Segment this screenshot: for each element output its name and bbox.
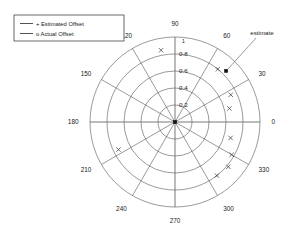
- polar-plot-figure: 0.20.40.60.81 03060901201501802102402703…: [0, 0, 296, 237]
- radial-tick-0.6: 0.6: [179, 67, 188, 74]
- angle-tick-150: 150: [81, 70, 92, 77]
- legend-frame: [14, 15, 124, 41]
- legend-label-actual: o Actual Offset: [36, 31, 74, 37]
- legend-label-estimated: + Estimated Offset: [36, 21, 84, 27]
- radial-tick-rmax: 1: [182, 38, 185, 44]
- radial-tick-0.4: 0.4: [179, 84, 188, 91]
- angle-tick-90: 90: [171, 20, 179, 27]
- annotation-estimate-label: estimate: [250, 29, 274, 36]
- actual-offset-marker: [224, 69, 227, 72]
- angle-tick-240: 240: [116, 205, 127, 212]
- angle-tick-30: 30: [259, 70, 267, 77]
- angle-tick-60: 60: [223, 32, 231, 39]
- angle-tick-0: 0: [271, 118, 275, 125]
- angle-tick-270: 270: [170, 217, 181, 224]
- angle-tick-210: 210: [81, 166, 92, 173]
- polar-plot-canvas: 0.20.40.60.81 03060901201501802102402703…: [0, 0, 296, 237]
- radial-tick-0.2: 0.2: [179, 101, 188, 108]
- angle-tick-180: 180: [68, 118, 79, 125]
- actual-offset-marker: [173, 120, 176, 123]
- angle-tick-300: 300: [223, 205, 234, 212]
- legend: + Estimated Offset o Actual Offset: [14, 15, 124, 41]
- radial-tick-0.8: 0.8: [179, 50, 188, 57]
- angle-tick-330: 330: [259, 166, 270, 173]
